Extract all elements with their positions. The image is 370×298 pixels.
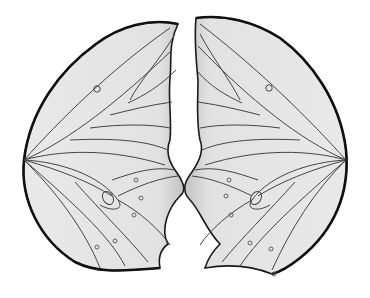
right-wing	[185, 17, 347, 276]
left-wing	[23, 22, 183, 270]
butterfly-wings-illustration	[0, 0, 370, 298]
wings-svg	[0, 0, 370, 298]
